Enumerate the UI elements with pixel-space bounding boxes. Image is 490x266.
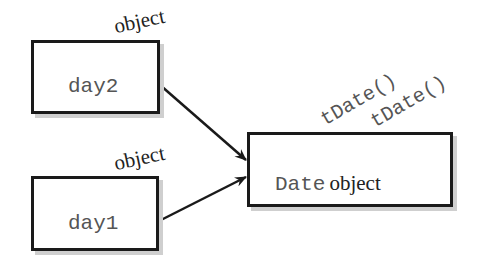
date-kind-text: object bbox=[329, 171, 380, 195]
date-type-text: Date bbox=[275, 173, 325, 196]
variable-box-day1: day1 bbox=[31, 176, 159, 251]
arrow-day1-to-date bbox=[159, 177, 246, 221]
date-object-box: Date object bbox=[247, 132, 453, 207]
date-object-label: Date object bbox=[275, 171, 381, 196]
variable-name-day1: day1 bbox=[68, 212, 118, 235]
arrow-day2-to-date bbox=[160, 85, 246, 160]
variable-box-day2: day2 bbox=[31, 40, 160, 114]
variable-name-day2: day2 bbox=[68, 75, 118, 98]
